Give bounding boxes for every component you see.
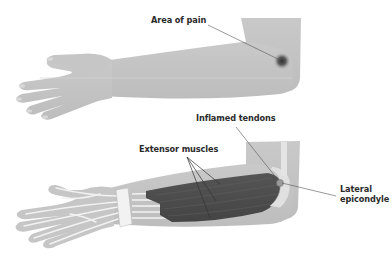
forearm [100,42,294,99]
tennis-elbow-diagram [0,0,392,256]
extensor-muscles-label: Extensor muscles [139,144,218,154]
lateral-epicondyle-label-line2: epicondyle [340,194,392,204]
pain-spot [273,52,291,70]
lateral-epicondyle-label: Lateral epicondyle [340,184,392,204]
lateral-epicondyle-label-line1: Lateral [340,184,392,194]
upper-arm-tendon [281,142,287,176]
area-of-pain-label: Area of pain [151,15,206,25]
inflamed-tendons-label: Inflamed tendons [196,113,275,123]
external-arm-view [16,18,301,120]
